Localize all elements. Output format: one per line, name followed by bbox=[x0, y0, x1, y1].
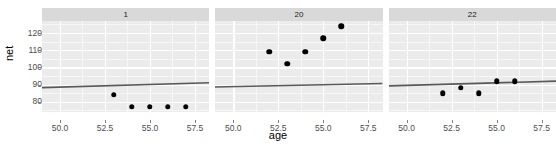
y-tick-mark bbox=[38, 67, 41, 68]
data-point bbox=[339, 23, 345, 29]
data-point bbox=[303, 49, 309, 55]
facet-strip-label: 22 bbox=[389, 8, 556, 21]
y-tick-mark bbox=[38, 85, 41, 86]
facet-panel: 2250.052.555.057.5 bbox=[389, 8, 556, 112]
data-point bbox=[129, 104, 135, 110]
data-point bbox=[147, 104, 153, 110]
y-tick-mark bbox=[38, 50, 41, 51]
regression-line bbox=[389, 21, 556, 112]
y-tick-label: 120 bbox=[8, 29, 42, 38]
y-tick-label: 80 bbox=[8, 97, 42, 106]
data-point bbox=[111, 92, 117, 98]
data-point bbox=[183, 104, 189, 110]
y-tick-label: 110 bbox=[8, 46, 42, 55]
data-point bbox=[321, 35, 327, 41]
data-point bbox=[267, 49, 273, 55]
plot-region bbox=[42, 21, 209, 112]
plot-region bbox=[215, 21, 382, 112]
y-axis: net 8090100110120 bbox=[0, 0, 42, 149]
faceted-scatter-chart: net 8090100110120 150.052.555.057.52050.… bbox=[0, 0, 556, 149]
y-tick-mark bbox=[38, 102, 41, 103]
regression-line bbox=[42, 21, 209, 112]
facet-label-text: 20 bbox=[295, 11, 304, 19]
data-point bbox=[165, 104, 171, 110]
data-point bbox=[458, 85, 464, 91]
data-point bbox=[476, 90, 482, 96]
y-tick-mark bbox=[38, 33, 41, 34]
y-tick-label: 100 bbox=[8, 63, 42, 72]
x-axis-title: age bbox=[0, 129, 556, 141]
facet-label-text: 22 bbox=[468, 11, 477, 19]
data-point bbox=[440, 90, 446, 96]
data-point bbox=[285, 61, 291, 67]
plot-region bbox=[389, 21, 556, 112]
y-tick-label: 90 bbox=[8, 80, 42, 89]
facet-panel: 150.052.555.057.5 bbox=[42, 8, 209, 112]
facet-strip-label: 20 bbox=[215, 8, 382, 21]
regression-line bbox=[215, 21, 382, 112]
data-point bbox=[494, 78, 500, 84]
facet-strip-label: 1 bbox=[42, 8, 209, 21]
facet-panel-row: 150.052.555.057.52050.052.555.057.52250.… bbox=[42, 8, 556, 112]
facet-panel: 2050.052.555.057.5 bbox=[215, 8, 382, 112]
facet-label-text: 1 bbox=[123, 11, 127, 19]
data-point bbox=[512, 78, 518, 84]
